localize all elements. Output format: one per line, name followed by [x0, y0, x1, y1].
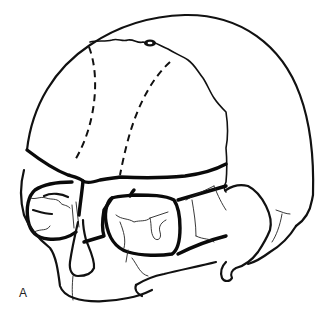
- cranial-vault-outline: [27, 15, 313, 226]
- skull-illustration: [0, 0, 330, 322]
- glabella-line: [79, 181, 83, 215]
- fontanelle-highlight: [148, 42, 153, 44]
- skull-diagram: A: [0, 0, 330, 322]
- sagittal-suture: [90, 39, 228, 192]
- orbit-left: [105, 195, 180, 255]
- orbit-right-inner: [33, 194, 68, 214]
- orbit-right-crack: [30, 197, 79, 228]
- mandible-angle: [135, 285, 142, 296]
- coronal-suture-right: [120, 62, 170, 175]
- coronal-suture-left: [74, 47, 95, 162]
- maxilla-mandible: [21, 170, 216, 301]
- orbit-left-cracks: [116, 212, 168, 248]
- nasal-bone: [70, 220, 94, 276]
- temporal-region: [221, 185, 271, 281]
- occipital-base: [248, 226, 296, 264]
- supraorbital-margin: [27, 150, 226, 183]
- figure-label: A: [19, 286, 27, 300]
